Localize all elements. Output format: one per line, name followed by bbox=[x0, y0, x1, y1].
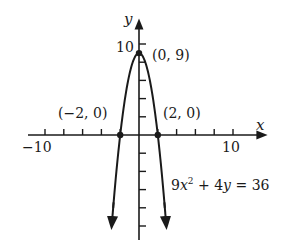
eq-y: y bbox=[223, 177, 231, 193]
y-tick-label-10: 10 bbox=[116, 40, 134, 54]
x-tick-label-min: −10 bbox=[22, 140, 52, 154]
vertex-label: (0, 9) bbox=[152, 48, 190, 62]
left-branch-arrow bbox=[112, 202, 114, 223]
x-tick-label-max: 10 bbox=[222, 140, 240, 154]
equation-label: 9x2 + 4y = 36 bbox=[171, 177, 269, 192]
eq-coef: 9 bbox=[171, 177, 180, 193]
eq-plus: + 4 bbox=[194, 177, 224, 193]
right-branch-arrow bbox=[164, 202, 166, 223]
parabola-plot bbox=[0, 0, 296, 241]
eq-x: x bbox=[180, 177, 188, 193]
eq-rhs: = 36 bbox=[231, 177, 269, 193]
y-axis-label: y bbox=[124, 12, 132, 27]
x-axis-label: x bbox=[256, 118, 264, 133]
left-intercept-label: (−2, 0) bbox=[58, 106, 107, 120]
right-intercept-label: (2, 0) bbox=[163, 106, 201, 120]
